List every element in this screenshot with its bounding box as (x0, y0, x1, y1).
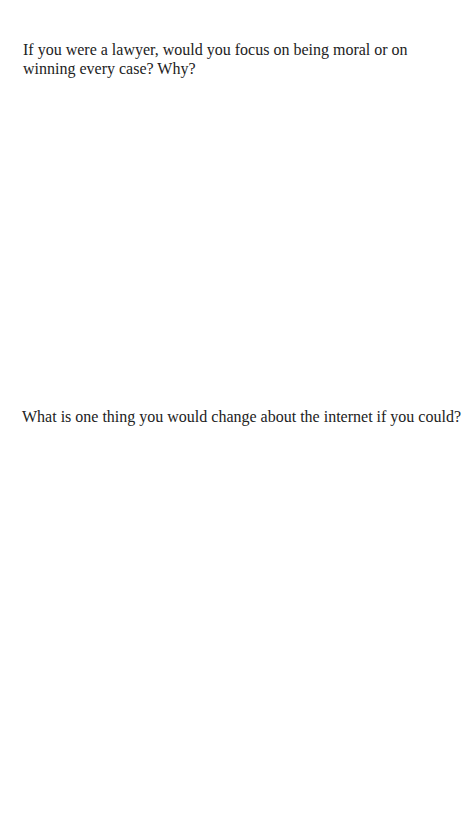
question-prompt-lawyer: If you were a lawyer, would you focus on… (23, 40, 463, 78)
question-prompt-internet: What is one thing you would change about… (22, 407, 472, 426)
cut-off-previous-text (70, 0, 470, 3)
